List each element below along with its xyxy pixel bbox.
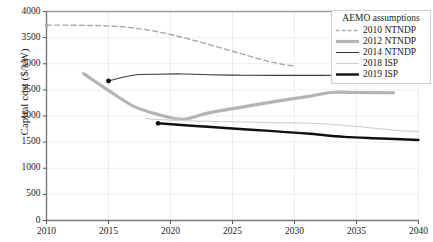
legend: AEMO assumptions 2010 NTNDP2012 NTNDP201…	[331, 10, 431, 84]
legend-item-label: 2019 ISP	[360, 69, 398, 80]
series-start-marker-2014-ntndp	[106, 79, 111, 84]
x-tick-label: 2030	[275, 226, 315, 236]
legend-items: 2010 NTNDP2012 NTNDP2014 NTNDP2018 ISP20…	[335, 25, 427, 80]
legend-line-swatch-icon	[335, 69, 360, 80]
y-tick-label: 2000	[7, 110, 41, 120]
legend-item-label: 2018 ISP	[360, 58, 398, 69]
y-tick-label: 0	[7, 215, 41, 225]
capital-cost-line-chart: Capital cost ($/kW) 40003500300025002000…	[0, 0, 433, 242]
legend-line-swatch-icon	[335, 47, 360, 58]
series-start-marker-2019-isp	[156, 121, 161, 126]
legend-item-2018-isp[interactable]: 2018 ISP	[335, 58, 427, 69]
y-tick-label: 3500	[7, 32, 41, 42]
legend-line-swatch-icon	[335, 58, 360, 69]
legend-line-swatch-icon	[335, 25, 360, 36]
legend-item-label: 2014 NTNDP	[360, 47, 416, 58]
legend-item-2012-ntndp[interactable]: 2012 NTNDP	[335, 36, 427, 47]
series-line-2019-isp	[158, 123, 418, 140]
y-tick-label: 500	[7, 188, 41, 198]
legend-item-2014-ntndp[interactable]: 2014 NTNDP	[335, 47, 427, 58]
y-tick-label: 2500	[7, 84, 41, 94]
x-tick-label: 2010	[27, 226, 67, 236]
x-tick-label: 2025	[213, 226, 253, 236]
x-tick-label: 2040	[399, 226, 433, 236]
y-tick-label: 1500	[7, 136, 41, 146]
y-tick-label: 4000	[7, 6, 41, 16]
x-tick-label: 2015	[89, 226, 129, 236]
legend-item-2019-isp[interactable]: 2019 ISP	[335, 69, 427, 80]
legend-title: AEMO assumptions	[335, 13, 427, 25]
x-tick-label: 2020	[151, 226, 191, 236]
y-tick-label: 1000	[7, 162, 41, 172]
legend-item-2010-ntndp[interactable]: 2010 NTNDP	[335, 25, 427, 36]
legend-line-swatch-icon	[335, 36, 360, 47]
legend-item-label: 2010 NTNDP	[360, 25, 416, 36]
legend-item-label: 2012 NTNDP	[360, 36, 416, 47]
series-start-marker-2010-ntndp	[45, 23, 49, 27]
x-tick-label: 2035	[337, 226, 377, 236]
y-tick-label: 3000	[7, 58, 41, 68]
